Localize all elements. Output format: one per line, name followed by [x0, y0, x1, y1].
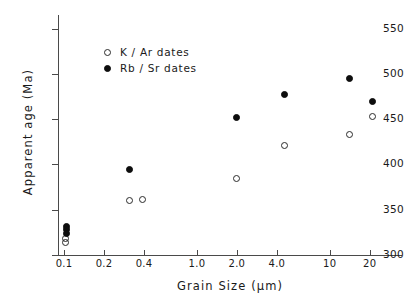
data-point — [233, 114, 240, 121]
y-tick — [52, 164, 58, 165]
x-tick-label: 4.0 — [257, 258, 297, 269]
data-point — [346, 75, 353, 82]
legend-item-k-ar: K / Ar dates — [104, 44, 197, 60]
x-tick — [197, 250, 198, 255]
y-axis-line — [58, 15, 59, 256]
data-point — [369, 98, 376, 105]
y-tick — [52, 74, 58, 75]
y-axis-title: Apparent age (Ma) — [21, 32, 35, 232]
x-tick — [104, 250, 105, 255]
data-point — [369, 113, 376, 120]
y-tick-label: 500 — [358, 67, 404, 79]
scatter-plot-figure: 300350400450500550 0.10.20.41.02.04.0102… — [0, 0, 404, 304]
data-point — [281, 142, 288, 149]
x-tick-label: 0.4 — [124, 258, 164, 269]
data-point — [126, 197, 133, 204]
x-tick — [330, 250, 331, 255]
filled-circle-icon — [104, 65, 111, 72]
x-tick-label: 2.0 — [217, 258, 257, 269]
y-tick-label: 400 — [358, 157, 404, 169]
data-point — [281, 91, 288, 98]
x-tick — [64, 250, 65, 255]
data-point — [139, 196, 146, 203]
x-tick-label: 0.1 — [44, 258, 84, 269]
x-axis-line — [58, 255, 402, 256]
chart-legend: K / Ar dates Rb / Sr dates — [104, 44, 197, 76]
data-point — [62, 239, 69, 246]
x-tick-label: 20 — [350, 258, 390, 269]
y-tick — [52, 119, 58, 120]
y-tick — [52, 255, 58, 256]
legend-label-k-ar: K / Ar dates — [120, 46, 189, 58]
data-point — [233, 175, 240, 182]
data-point — [346, 131, 353, 138]
y-tick-label: 450 — [358, 112, 404, 124]
x-tick-label: 1.0 — [177, 258, 217, 269]
x-axis-title: Grain Size (µm) — [58, 279, 402, 293]
x-tick-label: 0.2 — [84, 258, 124, 269]
x-tick — [237, 250, 238, 255]
x-tick — [144, 250, 145, 255]
legend-item-rb-sr: Rb / Sr dates — [104, 60, 197, 76]
x-tick — [370, 250, 371, 255]
open-circle-icon — [104, 49, 111, 56]
y-tick-label: 550 — [358, 22, 404, 34]
y-tick — [52, 29, 58, 30]
y-tick — [52, 210, 58, 211]
x-tick-label: 10 — [310, 258, 350, 269]
x-tick — [277, 250, 278, 255]
data-point — [63, 230, 70, 237]
data-point — [126, 166, 133, 173]
legend-label-rb-sr: Rb / Sr dates — [120, 62, 197, 74]
y-tick-label: 350 — [358, 203, 404, 215]
